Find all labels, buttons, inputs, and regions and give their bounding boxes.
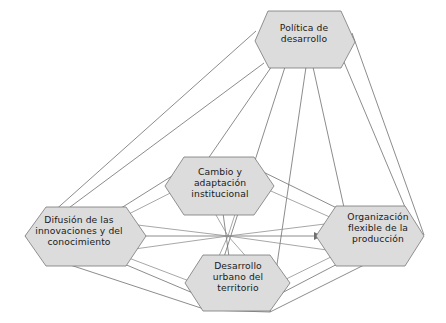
node-organizacion-flexible-de-la-produccion[interactable]: [316, 206, 424, 266]
diagram-canvas: [0, 0, 446, 323]
node-cambio-y-adaptacion-institucional[interactable]: [165, 157, 274, 215]
edge-politica-cambio-a: [203, 66, 272, 166]
diagram-root: Política de desarrollo Cambio y adaptaci…: [0, 0, 446, 323]
node-difusion-de-las-innovaciones[interactable]: [25, 207, 146, 266]
edge-politica-organizacion-inner: [313, 67, 345, 212]
node-politica-de-desarrollo[interactable]: [255, 11, 355, 68]
edge-politica-organizacion-outer: [352, 33, 424, 235]
node-desarrollo-urbano-del-territorio[interactable]: [185, 255, 290, 311]
